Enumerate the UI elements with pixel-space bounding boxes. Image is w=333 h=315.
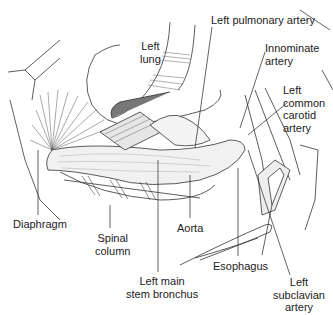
- label-left-pulmonary-artery: Left pulmonary artery: [211, 14, 315, 27]
- label-line: carotid: [283, 109, 325, 122]
- label-line: common: [283, 97, 325, 110]
- label-esophagus: Esophagus: [213, 260, 268, 273]
- label-line: Innominate: [265, 42, 319, 55]
- label-line: Left: [273, 276, 325, 289]
- label-line: Left main: [126, 275, 198, 288]
- label-left-main-stem-bronchus: Left main stem bronchus: [126, 275, 198, 300]
- label-line: Left: [283, 84, 325, 97]
- label-line: artery: [273, 301, 325, 314]
- label-line: lung: [140, 53, 161, 66]
- label-line: Left: [140, 40, 161, 53]
- anatomy-diagram: Left lung Left pulmonary artery Innomina…: [0, 0, 333, 315]
- label-line: artery: [283, 122, 325, 135]
- label-line: column: [95, 245, 130, 258]
- label-diaphragm: Diaphragm: [13, 218, 67, 231]
- label-line: subclavian: [273, 289, 325, 302]
- label-line: artery: [265, 55, 319, 68]
- label-left-subclavian-artery: Left subclavian artery: [273, 276, 325, 314]
- label-line: stem bronchus: [126, 288, 198, 301]
- label-spinal-column: Spinal column: [95, 232, 130, 257]
- label-aorta: Aorta: [177, 222, 203, 235]
- label-line: Spinal: [95, 232, 130, 245]
- label-left-common-carotid-artery: Left common carotid artery: [283, 84, 325, 134]
- label-left-lung: Left lung: [140, 40, 161, 65]
- label-innominate-artery: Innominate artery: [265, 42, 319, 67]
